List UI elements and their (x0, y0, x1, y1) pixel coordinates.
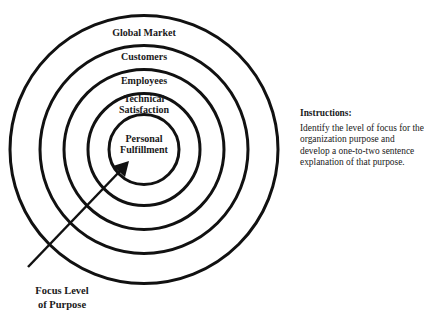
label-personal-line2: Fulfillment (104, 144, 184, 155)
label-customers: Customers (104, 51, 184, 62)
label-technical-line1: Technical (104, 93, 184, 104)
label-global-market: Global Market (104, 27, 184, 38)
label-employees: Employees (104, 75, 184, 86)
label-technical-satisfaction: Technical Satisfaction (104, 93, 184, 115)
label-personal-fulfillment: Personal Fulfillment (104, 133, 184, 155)
label-personal-line1: Personal (104, 133, 184, 144)
instructions-title: Instructions: (300, 108, 424, 120)
focus-level-line2: of Purpose (22, 298, 102, 312)
instructions-body: Identify the level of focus for the orga… (300, 123, 424, 168)
instructions-panel: Instructions: Identify the level of focu… (300, 108, 424, 169)
label-technical-line2: Satisfaction (104, 104, 184, 115)
focus-level-line1: Focus Level (22, 284, 102, 298)
focus-level-label: Focus Level of Purpose (22, 284, 102, 312)
